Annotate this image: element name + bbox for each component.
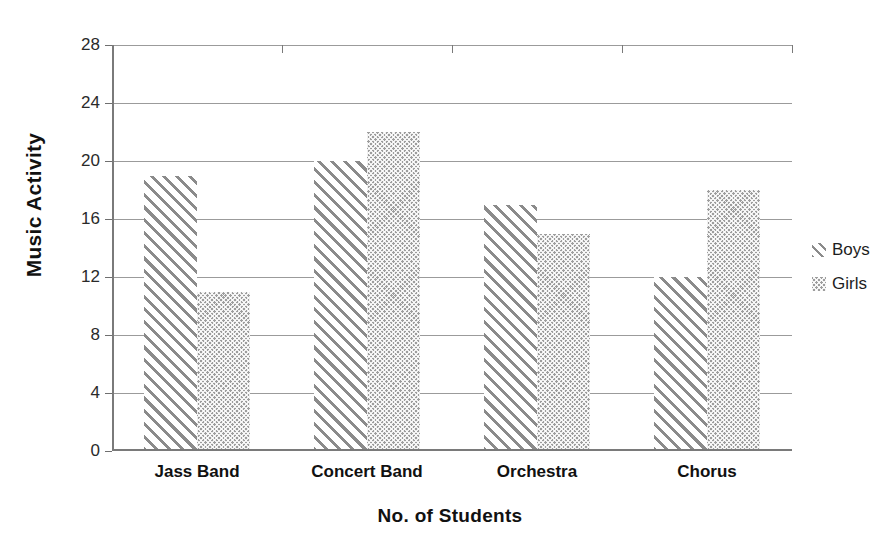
gridline	[112, 161, 792, 162]
x-axis-tick-mark	[282, 45, 283, 53]
y-axis-tick-label: 8	[91, 325, 100, 345]
y-axis-tick-label: 0	[91, 441, 100, 461]
y-axis-tick-label: 4	[91, 383, 100, 403]
x-axis-line	[112, 449, 792, 451]
y-axis-tick-mark	[105, 45, 112, 46]
y-axis-line	[112, 45, 114, 451]
y-axis-tick-mark	[105, 451, 112, 452]
chart-legend: BoysGirls	[812, 233, 895, 301]
x-axis-title: No. of Students	[110, 505, 790, 527]
bar-boys-concert-band	[314, 161, 367, 451]
y-axis-tick-mark	[105, 277, 112, 278]
bar-girls-jass-band	[197, 292, 250, 452]
y-axis-tick-mark	[105, 393, 112, 394]
legend-item-girls[interactable]: Girls	[812, 267, 895, 301]
x-axis-category-label: Orchestra	[497, 462, 577, 482]
y-axis-title: Music Activity	[22, 75, 46, 335]
bar-boys-orchestra	[484, 205, 537, 452]
bar-girls-concert-band	[367, 132, 420, 451]
x-axis-tick-mark	[112, 45, 113, 53]
y-axis-tick-mark	[105, 335, 112, 336]
x-axis-tick-mark	[452, 45, 453, 53]
plot-area: 0481216202428	[112, 45, 792, 451]
legend-item-label: Boys	[832, 240, 870, 260]
y-axis-tick-label: 20	[81, 151, 100, 171]
checker-dot-swatch	[812, 277, 826, 291]
y-axis-tick-mark	[105, 219, 112, 220]
gridline	[112, 103, 792, 104]
x-axis-tick-mark	[622, 45, 623, 53]
x-axis-category-label: Chorus	[677, 462, 737, 482]
y-axis-tick-mark	[105, 103, 112, 104]
y-axis-tick-label: 24	[81, 93, 100, 113]
bar-girls-chorus	[707, 190, 760, 451]
x-axis-category-label: Concert Band	[311, 462, 422, 482]
legend-item-label: Girls	[832, 274, 867, 294]
y-axis-tick-mark	[105, 161, 112, 162]
bar-boys-chorus	[654, 277, 707, 451]
x-axis-tick-mark	[792, 45, 793, 53]
diagonal-hatch-swatch	[812, 243, 826, 257]
y-axis-tick-label: 16	[81, 209, 100, 229]
bar-boys-jass-band	[144, 176, 197, 452]
legend-item-boys[interactable]: Boys	[812, 233, 895, 267]
x-axis-category-label: Jass Band	[154, 462, 239, 482]
bar-girls-orchestra	[537, 234, 590, 452]
gridline	[112, 219, 792, 220]
y-axis-tick-label: 28	[81, 35, 100, 55]
bar-chart-figure: Music Activity No. of Students 048121620…	[0, 0, 895, 550]
y-axis-tick-label: 12	[81, 267, 100, 287]
